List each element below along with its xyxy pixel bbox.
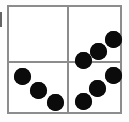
dot — [47, 94, 64, 111]
left-edge-scan-artifact — [0, 12, 2, 27]
dot — [30, 82, 47, 99]
dot — [14, 68, 31, 85]
dot — [90, 43, 107, 60]
quadrant-bottom-right — [69, 63, 124, 115]
dot — [75, 93, 92, 110]
quadrant-bottom-left — [9, 63, 64, 115]
dot — [89, 80, 106, 97]
figure-root — [0, 0, 129, 122]
quadrant-grid-box — [7, 5, 122, 114]
quadrant-top-right — [69, 7, 124, 59]
dot — [105, 67, 122, 84]
quadrant-top-left — [9, 7, 64, 59]
dot — [105, 31, 122, 48]
